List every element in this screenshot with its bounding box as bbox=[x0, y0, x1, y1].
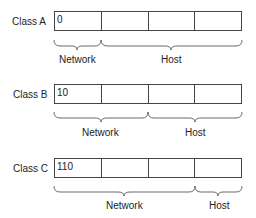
class-b-network-brace bbox=[54, 112, 148, 122]
class-c-network-brace bbox=[54, 186, 195, 196]
class-c-host-brace bbox=[195, 186, 242, 196]
class-a-host-brace bbox=[101, 40, 242, 50]
class-b-host-brace bbox=[148, 112, 242, 122]
class-a-network-brace bbox=[54, 40, 101, 50]
brace-layer bbox=[0, 0, 256, 218]
